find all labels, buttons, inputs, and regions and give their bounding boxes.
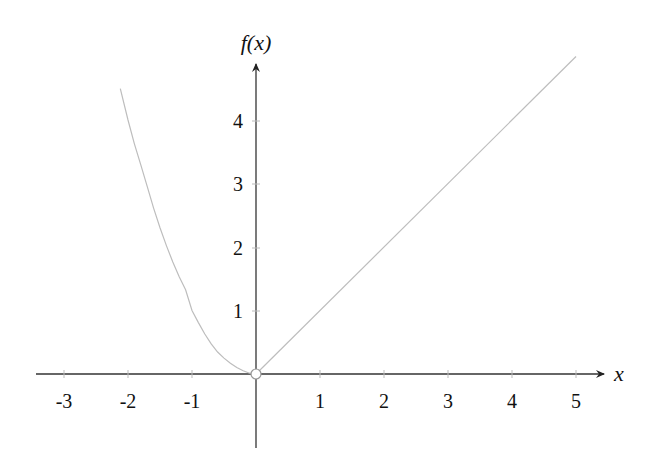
x-tick-label: 3 [443,390,453,412]
x-tick-label: 4 [507,390,517,412]
x-tick-label: 5 [571,390,581,412]
y-tick-label: 4 [233,110,243,132]
y-tick-label: 1 [233,300,243,322]
x-tick-labels: -3 -2 -1 1 2 3 4 5 [56,390,581,412]
x-tick-label: 2 [379,390,389,412]
x-tick-label: 1 [315,390,325,412]
y-axis-label: f(x) [241,30,272,55]
x-tick-label: -2 [120,390,137,412]
x-axis-label: x [613,361,624,386]
y-tick-labels: 1 2 3 4 [233,110,243,322]
x-tick-label: -3 [56,390,73,412]
chart: -3 -2 -1 1 2 3 4 5 1 2 3 4 x f(x) [0,0,648,471]
x-tick-label: -1 [184,390,201,412]
y-tick-label: 2 [233,237,243,259]
series-linear [256,57,576,375]
open-circle-marker [251,369,261,379]
y-tick-label: 3 [233,173,243,195]
